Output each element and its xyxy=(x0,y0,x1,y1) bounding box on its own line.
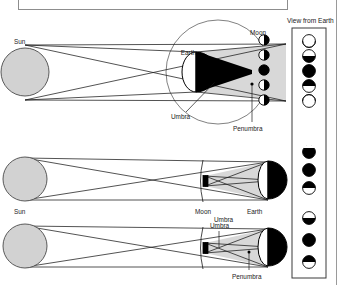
moon-position-2 xyxy=(259,50,269,60)
label-penumbra-solar-2: Penumbra xyxy=(232,273,262,280)
view-phase-solar2-3 xyxy=(303,256,316,269)
view-phase-lunar-3 xyxy=(303,65,316,78)
earth-body-solar-1 xyxy=(258,161,287,199)
view-phase-lunar-4 xyxy=(303,80,316,93)
label-earth-lunar: Earth xyxy=(181,49,197,56)
earth-body-solar-2 xyxy=(258,228,287,266)
moon-position-1 xyxy=(259,35,269,45)
umbra-pointer-dot xyxy=(213,79,216,82)
label-umbra-lunar: Umbra xyxy=(171,113,191,120)
view-phases-solar-1 xyxy=(303,145,316,195)
panel-lunar-eclipse: Sun Earth Moon Umbra Penumbra xyxy=(1,20,286,132)
moon-position-3 xyxy=(259,65,269,75)
view-phase-solar2-2 xyxy=(303,234,316,247)
penumbra-pointer-dot-2 xyxy=(248,251,251,254)
view-phase-solar1-1 xyxy=(303,145,316,159)
label-sun-solar-1: Sun xyxy=(14,208,26,215)
figure-title-box: ECLIPSES OF THE SUN AND MOON xyxy=(18,0,288,10)
view-phase-lunar-5 xyxy=(303,95,316,108)
label-moon-solar-1: Moon xyxy=(195,208,211,215)
sun-body-solar-2 xyxy=(3,224,47,268)
view-from-earth-panel: View from Earth xyxy=(287,17,334,278)
label-earth-solar-1: Earth xyxy=(247,208,263,215)
figure-title: ECLIPSES OF THE SUN AND MOON xyxy=(27,0,246,2)
view-phase-solar1-2 xyxy=(303,164,316,177)
label-view-from-earth: View from Earth xyxy=(287,17,334,24)
view-phases-lunar xyxy=(303,35,316,108)
sun-body-solar-1 xyxy=(3,157,47,201)
label-sun-lunar: Sun xyxy=(14,38,26,45)
label-moon-lunar: Moon xyxy=(250,29,266,36)
moon-position-5 xyxy=(259,95,269,105)
moon-body-solar-2 xyxy=(203,243,208,254)
panel-solar-eclipse-penumbra: Umbra Penumbra xyxy=(3,222,287,280)
sun-body-lunar xyxy=(1,48,49,96)
eclipse-diagram-figure: ECLIPSES OF THE SUN AND MOON xyxy=(0,0,337,285)
view-phase-lunar-1 xyxy=(303,35,316,48)
penumbra-pointer-dot xyxy=(250,82,253,85)
label-umbra-solar-2: Umbra xyxy=(210,222,230,229)
moon-body-solar-1 xyxy=(203,176,208,187)
view-phase-lunar-2 xyxy=(303,50,316,63)
panel-solar-eclipse-total: Sun Moon Earth Umbra xyxy=(3,157,287,223)
view-phase-solar2-1 xyxy=(303,212,316,225)
diagram-canvas: Sun Earth Moon Umbra Penumbra xyxy=(0,0,337,285)
moon-position-4 xyxy=(259,80,269,90)
label-penumbra-lunar: Penumbra xyxy=(233,125,263,132)
view-phase-solar1-3 xyxy=(303,182,316,195)
view-phases-solar-2 xyxy=(303,212,316,269)
